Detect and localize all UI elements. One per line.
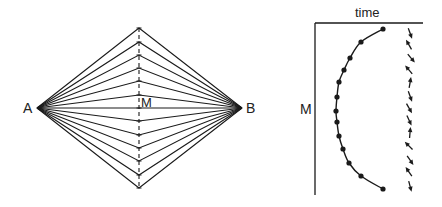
trajectory-dot xyxy=(340,146,345,151)
trajectory-dot xyxy=(336,133,341,138)
arrow-icon xyxy=(407,127,413,138)
trajectory-dot xyxy=(346,160,351,165)
phase-arrows xyxy=(403,28,416,193)
arrow-icon xyxy=(406,91,414,103)
label-a: A xyxy=(23,100,33,116)
arrow-icon xyxy=(403,140,414,151)
arrow-icon xyxy=(404,39,413,51)
trajectory-points xyxy=(333,26,385,191)
time-evolution-plot: time M xyxy=(300,5,423,195)
trajectory-dot xyxy=(334,94,339,99)
arrow-icon xyxy=(403,64,414,75)
path-integral-diamond: A B M xyxy=(23,28,255,188)
arrow-icon xyxy=(407,77,413,89)
trajectory-dot xyxy=(380,186,385,191)
trajectory-dot xyxy=(358,173,363,178)
trajectory-dot xyxy=(380,26,385,31)
arrow-icon xyxy=(406,53,417,64)
arrow-icon xyxy=(405,114,414,126)
axis-label-m: M xyxy=(300,101,312,117)
diagram-canvas: A B M time M xyxy=(0,0,442,207)
axis-label-time: time xyxy=(355,5,380,20)
trajectory-dot xyxy=(334,119,339,124)
trajectory-dot xyxy=(341,67,346,72)
trajectory-dot xyxy=(358,39,363,44)
label-m-center: M xyxy=(141,95,152,110)
arrow-icon xyxy=(406,181,413,193)
trajectory-curve xyxy=(336,29,383,189)
arrow-icon xyxy=(404,166,414,178)
label-b: B xyxy=(246,100,255,116)
arrow-icon xyxy=(405,155,415,167)
trajectory-dot xyxy=(336,79,341,84)
trajectory-dot xyxy=(333,108,338,113)
trajectory-dot xyxy=(347,55,352,60)
arrow-icon xyxy=(406,28,414,40)
arrow-icon xyxy=(405,103,414,115)
